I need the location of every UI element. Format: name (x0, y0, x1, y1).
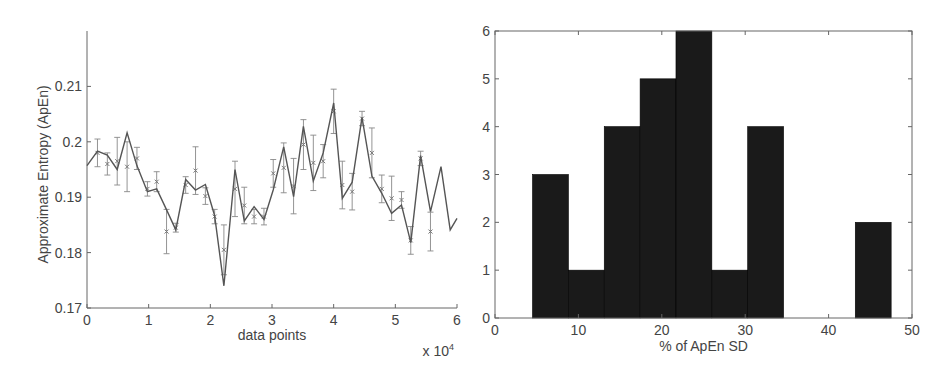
histogram-bar (748, 127, 784, 318)
y-tick-label: 0.17 (55, 300, 82, 316)
x-axis-label: % of ApEn SD (659, 338, 748, 354)
histogram-bar (604, 127, 640, 318)
histogram-bar (855, 222, 891, 318)
x-axis-label: data points (238, 327, 307, 343)
x-tick-label: 10 (571, 322, 587, 338)
x-tick-label: 20 (654, 322, 670, 338)
histogram-bar (640, 79, 676, 318)
y-tick-label: 4 (482, 119, 490, 135)
x-multiplier-label: x 104 (423, 342, 454, 359)
y-tick-label: 5 (482, 71, 490, 87)
histogram-bar (712, 270, 748, 318)
y-tick-label: 0.21 (55, 78, 82, 94)
y-tick-label: 2 (482, 214, 490, 230)
histogram-bar (676, 31, 712, 318)
y-tick-label: 6 (482, 23, 490, 39)
x-tick-label: 6 (453, 312, 461, 328)
y-tick-label: 0.2 (63, 134, 83, 150)
y-tick-label: 0.18 (55, 245, 82, 261)
x-tick-label: 5 (391, 312, 399, 328)
x-tick-label: 3 (268, 312, 276, 328)
x-tick-label: 4 (330, 312, 338, 328)
histogram-bar (568, 270, 604, 318)
y-axis-label: Approximate Entropy (ApEn) (35, 85, 51, 263)
x-tick-label: 40 (821, 322, 837, 338)
figure: 01234560.170.180.190.20.21data pointsApp… (0, 0, 947, 375)
x-tick-label: 50 (904, 322, 920, 338)
y-tick-label: 0 (482, 310, 490, 326)
histogram-bar (533, 175, 569, 319)
y-tick-label: 1 (482, 262, 490, 278)
y-tick-label: 0.19 (55, 189, 82, 205)
x-tick-label: 30 (737, 322, 753, 338)
apen-sd-histogram: 010203040500123456% of ApEn SD (482, 23, 920, 354)
y-tick-label: 3 (482, 167, 490, 183)
x-tick-label: 0 (491, 322, 499, 338)
x-tick-label: 1 (145, 312, 153, 328)
x-tick-label: 0 (83, 312, 91, 328)
x-tick-label: 2 (206, 312, 214, 328)
apen-line-chart: 01234560.170.180.190.20.21data pointsApp… (35, 31, 461, 359)
